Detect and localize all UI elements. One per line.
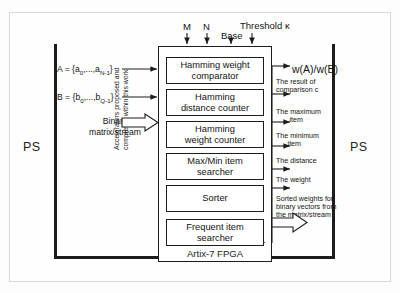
module-hamming-weight-counter: Hamming weight counter [166, 121, 264, 148]
vector-a-mid: ,...,a [83, 64, 100, 74]
accelerators-note: Accelerators proposed and completed with… [113, 30, 130, 150]
vector-a-head: A = {a [57, 64, 80, 74]
top-input-label-n: N [203, 21, 210, 32]
module-1-line2: comparator [180, 71, 249, 81]
top-input-label-threshold: Threshold κ [240, 20, 290, 31]
vector-a-sub-n: N-1 [100, 69, 110, 76]
fpga-label: Artix-7 FPGA [158, 248, 272, 259]
output-label-weight: The weight [276, 177, 311, 185]
top-input-label-m: M [183, 21, 191, 32]
accelerators-note-line1: Accelerators proposed and [113, 30, 122, 150]
ps-label-left: PS [23, 140, 40, 154]
output-label-w-ratio: w(A)/w(B) [292, 63, 338, 75]
module-5-line1: Sorter [202, 193, 227, 203]
vector-b-head: B = {b [57, 92, 80, 102]
output-3-line2: item [276, 117, 321, 125]
module-4-line1: Max/Min item [187, 156, 242, 166]
module-4-line2: searcher [187, 167, 242, 177]
module-2-line2: distance counter [181, 103, 249, 113]
module-3-line1: Hamming [185, 124, 245, 134]
vector-b-sub-q: Q-1 [100, 97, 110, 104]
output-4-line2: item [276, 141, 319, 149]
diagram-canvas: PS PS Artix-7 FPGA PL M N Base Threshold… [0, 0, 400, 293]
input-label-vector-a: A = {a0,...,aN-1} [57, 64, 113, 76]
top-input-label-base: Base [221, 30, 243, 41]
module-hamming-weight-comparator: Hamming weight comparator [166, 57, 264, 84]
output-6-line1: The weight [276, 177, 311, 185]
module-2-line1: Hamming [181, 92, 249, 102]
module-3-line2: weight counter [185, 135, 245, 145]
output-label-sorted-weights: Sorted weights for binary vectors from t… [276, 196, 336, 220]
output-label-minimum-item: The minimum item [276, 133, 319, 149]
module-hamming-distance-counter: Hamming distance counter [166, 89, 264, 116]
output-2-line2: comparison c [276, 87, 318, 95]
input-label-vector-b: B = {b0,...,bQ-1} [57, 92, 114, 104]
module-sorter: Sorter [166, 185, 264, 212]
output-label-distance: The distance [276, 158, 317, 166]
output-label-comparison-result: The result of comparison c [276, 79, 318, 95]
module-1-line1: Hamming weight [180, 60, 249, 70]
output-7-line3: the matrix/stream [276, 212, 336, 220]
module-max-min-item-searcher: Max/Min item searcher [166, 153, 264, 180]
output-label-maximum-item: The maximum item [276, 109, 321, 125]
module-6-line1: Frequent item [186, 222, 243, 232]
ps-label-right: PS [350, 140, 367, 154]
module-6-line2: searcher [186, 233, 243, 243]
output-5-line1: The distance [276, 158, 317, 166]
module-frequent-item-searcher: Frequent item searcher [166, 219, 264, 246]
vector-b-mid: ,...,b [84, 92, 101, 102]
accelerators-note-line2: completed within this work [122, 30, 131, 150]
